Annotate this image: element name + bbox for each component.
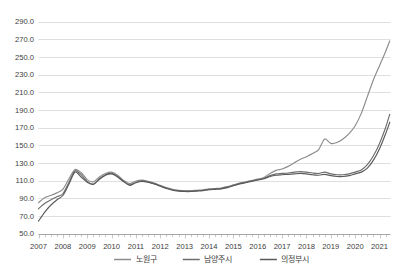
- gridlines: [39, 23, 391, 235]
- x-tick-label: 2019: [322, 242, 339, 251]
- x-tick-label: 2016: [249, 242, 266, 251]
- x-tick-label: 2020: [347, 242, 364, 251]
- y-tick-label: 270.0: [15, 35, 34, 44]
- x-tick-label: 2008: [54, 242, 71, 251]
- y-tick-label: 290.0: [15, 17, 34, 26]
- y-tick-label: 230.0: [15, 70, 34, 79]
- legend-label-2: 의정부시: [281, 254, 309, 264]
- x-tick-label: 2007: [30, 242, 47, 251]
- y-tick-label: 250.0: [15, 53, 34, 62]
- data-series-lines: [39, 41, 390, 221]
- x-tick-label: 2010: [103, 242, 120, 251]
- legend-label-1: 남양주시: [204, 255, 232, 264]
- series-line-2: [39, 122, 390, 221]
- y-tick-label: 110.0: [16, 176, 34, 185]
- y-axis-tick-labels: 290.0270.0250.0230.0210.0190.0170.0150.0…: [15, 17, 34, 238]
- y-tick-label: 190.0: [15, 106, 34, 115]
- y-tick-label: 90.0: [19, 194, 34, 203]
- y-tick-label: 210.0: [15, 88, 34, 97]
- y-tick-label: 70.0: [19, 212, 34, 221]
- x-tick-label: 2014: [201, 242, 218, 251]
- x-axis-tick-labels: 2007200820092010201120122013201420152016…: [30, 242, 388, 251]
- y-tick-label: 50.0: [19, 229, 34, 238]
- x-tick-label: 2009: [79, 242, 96, 251]
- x-tick-label: 2017: [274, 242, 291, 251]
- chart-plot-area: 290.0270.0250.0230.0210.0190.0170.0150.0…: [0, 0, 399, 275]
- line-chart-container: 290.0270.0250.0230.0210.0190.0170.0150.0…: [0, 0, 399, 275]
- y-tick-label: 150.0: [15, 141, 34, 150]
- x-tick-label: 2021: [371, 242, 388, 251]
- x-tick-label: 2013: [176, 242, 193, 251]
- y-tick-label: 170.0: [15, 123, 34, 132]
- y-tick-label: 130.0: [15, 159, 34, 168]
- x-tick-label: 2011: [128, 242, 144, 251]
- x-axis: [40, 235, 387, 239]
- x-tick-label: 2012: [152, 242, 169, 251]
- chart-legend: 노원구남양주시의정부시: [114, 254, 309, 264]
- legend-label-0: 노원구: [136, 255, 157, 264]
- x-tick-label: 2015: [225, 242, 242, 251]
- series-line-0: [39, 41, 390, 203]
- x-tick-label: 2018: [298, 242, 315, 251]
